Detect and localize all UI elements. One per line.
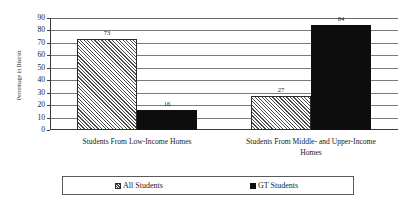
bar-value-label: 84 [311, 16, 371, 23]
x-axis-category-label-line: Students From Low-Income Homes [50, 136, 224, 147]
bar-value-label: 27 [251, 87, 311, 94]
y-axis-tick-mark [47, 18, 50, 19]
y-axis-tick-label: 0 [23, 126, 45, 134]
y-axis-tick-mark [47, 55, 50, 56]
y-axis-tick-mark [47, 80, 50, 81]
y-axis-tick-label: 30 [23, 89, 45, 97]
y-axis-tick-mark [47, 105, 50, 106]
bar-chart: Percentage in District 90807060504030201… [0, 0, 417, 208]
bar-value-label: 73 [77, 30, 137, 37]
legend-swatch-hatched-icon [115, 183, 121, 189]
legend-item-label: All Students [123, 181, 163, 191]
legend-swatch-solid-icon [250, 183, 256, 189]
x-axis-category-label: Students From Middle- and Upper-IncomeHo… [224, 136, 398, 158]
y-axis-tick-mark [47, 43, 50, 44]
y-axis-tick-mark [47, 30, 50, 31]
y-axis-tick-mark [47, 93, 50, 94]
bar-value-label: 16 [137, 101, 197, 108]
y-axis-title: Percentage in District [16, 15, 22, 135]
bar-all-students-group-0 [77, 39, 137, 130]
y-axis-tick-label: 80 [23, 26, 45, 34]
bar-gt-students-group-1 [311, 25, 371, 130]
y-axis-tick-label: 40 [23, 76, 45, 84]
x-axis-category-label: Students From Low-Income Homes [50, 136, 224, 147]
y-axis-tick-label: 10 [23, 114, 45, 122]
x-axis-category-label-line: Homes [224, 147, 398, 158]
y-axis-tick-label: 70 [23, 39, 45, 47]
y-axis-tick-label: 90 [23, 14, 45, 22]
y-axis-tick-mark [47, 130, 50, 131]
chart-legend: All StudentsGT Students [62, 176, 354, 195]
legend-item-label: GT Students [258, 181, 298, 191]
legend-item-gt-students[interactable]: GT Students [250, 181, 298, 191]
y-axis-tick-label: 50 [23, 64, 45, 72]
y-axis-tick-mark [47, 68, 50, 69]
y-axis-tick-label: 60 [23, 51, 45, 59]
y-axis-tick-label: 20 [23, 101, 45, 109]
bar-all-students-group-1 [251, 96, 311, 130]
bar-gt-students-group-0 [137, 110, 197, 130]
y-axis-tick-mark [47, 118, 50, 119]
legend-item-all-students[interactable]: All Students [115, 181, 163, 191]
x-axis-category-label-line: Students From Middle- and Upper-Income [224, 136, 398, 147]
